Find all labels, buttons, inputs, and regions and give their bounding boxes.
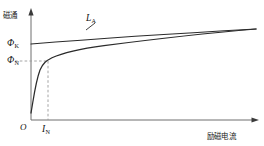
la-subscript: A	[92, 17, 96, 24]
i-n-tick-label: IN	[42, 124, 50, 134]
i-n-subscript: N	[45, 128, 49, 135]
phi-n-subscript: N	[15, 59, 19, 66]
x-axis-label: 励磁电流	[207, 130, 236, 141]
phi-n-tick-label: ΦN	[7, 55, 19, 65]
phi-k-tick-label: ΦK	[7, 38, 19, 48]
air-gap-line-curve	[31, 29, 256, 44]
la-curve-label: LA	[86, 13, 96, 23]
phi-k-symbol: Φ	[7, 38, 14, 48]
plot-canvas	[0, 0, 264, 146]
arrow-up-icon	[28, 8, 33, 16]
phi-n-symbol: Φ	[7, 55, 14, 65]
phi-k-subscript: K	[15, 42, 19, 49]
arrow-right-icon	[252, 117, 260, 122]
y-axis-label: 磁通	[3, 9, 17, 20]
la-symbol: L	[86, 13, 91, 23]
magnetization-curve-figure: 磁通 励磁电流 ΦK ΦN O IN LA	[0, 0, 264, 146]
origin-label: O	[20, 122, 27, 132]
